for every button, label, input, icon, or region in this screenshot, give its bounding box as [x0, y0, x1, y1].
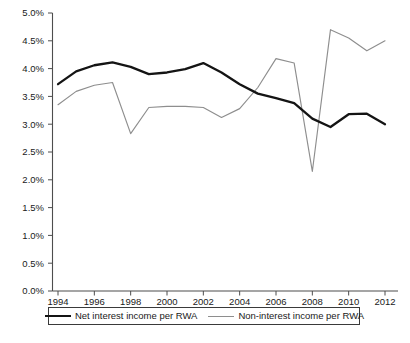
x-tick-label: 2010 [338, 296, 359, 307]
x-tick-label: 2002 [193, 296, 214, 307]
chart-legend: Net interest income per RWA Non-interest… [48, 307, 360, 325]
x-tick-label: 2012 [374, 296, 395, 307]
x-tick-label: 1998 [120, 296, 141, 307]
x-tick-label: 2006 [265, 296, 286, 307]
y-tick-label: 4.5% [22, 35, 44, 46]
y-tick-label: 2.0% [22, 174, 44, 185]
y-tick-label: 2.5% [22, 146, 44, 157]
x-axis-ticks: 1994199619982000200220042006200820102012 [47, 291, 395, 307]
x-tick-label: 2000 [156, 296, 177, 307]
legend-entry-net-interest-income: Net interest income per RWA [39, 311, 203, 321]
x-tick-label: 2008 [302, 296, 323, 307]
y-tick-label: 3.5% [22, 91, 44, 102]
y-tick-label: 1.0% [22, 230, 44, 241]
x-tick-label: 1996 [84, 296, 105, 307]
legend-label-net: Net interest income per RWA [71, 311, 203, 321]
series-line-non-interest-income [58, 30, 385, 172]
y-tick-label: 4.0% [22, 63, 44, 74]
x-tick-label: 2004 [229, 296, 250, 307]
legend-entry-non-interest-income: Non-interest income per RWA [202, 311, 369, 321]
y-tick-label: 0.5% [22, 258, 44, 269]
y-tick-label: 0.0% [22, 285, 44, 296]
figure-container: 0.0%0.5%1.0%1.5%2.0%2.5%3.0%3.5%4.0%4.5%… [0, 0, 410, 343]
x-tick-label: 1994 [47, 296, 68, 307]
legend-swatch-non-icon [208, 316, 234, 317]
y-axis-ticks: 0.0%0.5%1.0%1.5%2.0%2.5%3.0%3.5%4.0%4.5%… [22, 7, 52, 296]
line-chart-plot: 0.0%0.5%1.0%1.5%2.0%2.5%3.0%3.5%4.0%4.5%… [0, 0, 410, 343]
y-tick-label: 3.0% [22, 119, 44, 130]
y-tick-label: 1.5% [22, 202, 44, 213]
legend-label-non: Non-interest income per RWA [234, 311, 369, 321]
legend-swatch-net-icon [45, 315, 71, 317]
y-tick-label: 5.0% [22, 7, 44, 18]
